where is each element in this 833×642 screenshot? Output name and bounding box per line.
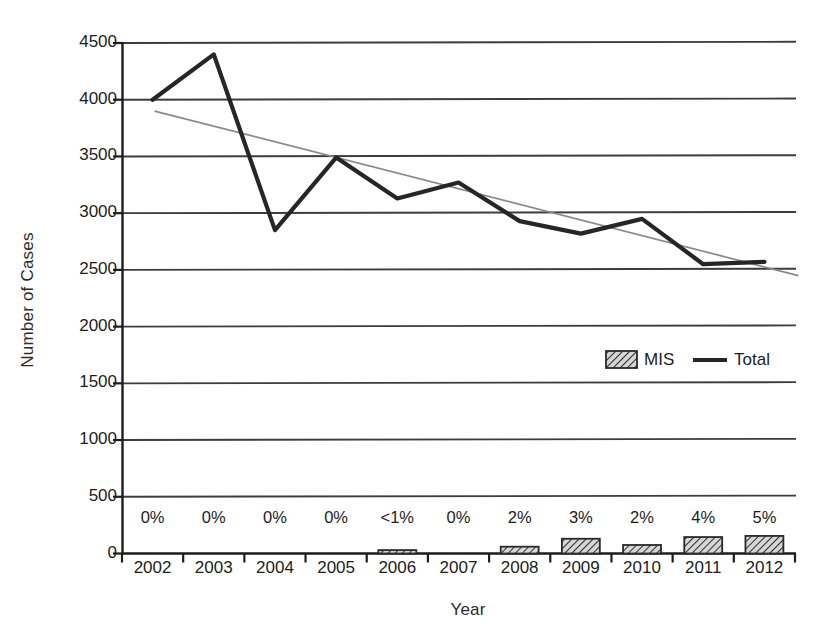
y-tick-label: 500 bbox=[47, 486, 117, 506]
mis-percent-label: 2% bbox=[611, 508, 673, 527]
mis-percent-label: 4% bbox=[672, 508, 734, 527]
y-tick-label: 4500 bbox=[47, 32, 117, 52]
total-line-series bbox=[153, 54, 765, 264]
mis-percent-label: 3% bbox=[550, 508, 612, 527]
mis-percent-label: 0% bbox=[183, 508, 245, 527]
x-tick-label: 2003 bbox=[183, 558, 245, 578]
mis-bar bbox=[684, 537, 722, 553]
y-tick-label: 3500 bbox=[47, 145, 117, 165]
chart-plot-area bbox=[0, 0, 833, 642]
mis-bar bbox=[623, 545, 661, 554]
x-tick-label: 2004 bbox=[244, 558, 306, 578]
x-tick-label: 2010 bbox=[611, 558, 673, 578]
mis-bar bbox=[378, 550, 416, 553]
mis-percent-label: 2% bbox=[489, 508, 551, 527]
x-tick-label: 2002 bbox=[122, 558, 184, 578]
x-tick-label: 2008 bbox=[489, 558, 551, 578]
gridline bbox=[122, 42, 796, 43]
mis-percent-label: 0% bbox=[122, 508, 184, 527]
legend-swatch-mis bbox=[606, 351, 637, 368]
gridlines bbox=[122, 42, 796, 497]
y-tick-label: 2000 bbox=[47, 316, 117, 336]
mis-bar bbox=[745, 536, 783, 554]
x-axis-title: Year bbox=[388, 600, 548, 620]
gridline bbox=[122, 99, 796, 100]
x-tick-label: 2005 bbox=[305, 558, 367, 578]
y-tick-label: 4000 bbox=[47, 89, 117, 109]
mis-bar-series bbox=[378, 536, 783, 554]
y-axis-title: Number of Cases bbox=[18, 210, 38, 390]
gridline bbox=[122, 382, 796, 383]
y-tick-label: 1500 bbox=[47, 372, 117, 392]
y-tick-label: 2500 bbox=[47, 259, 117, 279]
mis-percent-label: 5% bbox=[733, 508, 795, 527]
x-tick-label: 2012 bbox=[733, 558, 795, 578]
x-tick-label: 2007 bbox=[428, 558, 490, 578]
mis-percent-label: 0% bbox=[305, 508, 367, 527]
x-tick-label: 2009 bbox=[550, 558, 612, 578]
y-tick-label: 1000 bbox=[47, 429, 117, 449]
x-tick-label: 2011 bbox=[672, 558, 734, 578]
mis-percent-label: 0% bbox=[244, 508, 306, 527]
legend-label-total: Total bbox=[734, 350, 770, 370]
gridline bbox=[122, 496, 796, 497]
mis-percent-label: 0% bbox=[428, 508, 490, 527]
y-axis-tick-marks bbox=[113, 43, 122, 554]
y-tick-label: 3000 bbox=[47, 202, 117, 222]
gridline bbox=[122, 155, 796, 156]
y-tick-label: 0 bbox=[47, 543, 117, 563]
mis-bar bbox=[501, 547, 539, 554]
mis-bar bbox=[562, 539, 600, 554]
legend-label-mis: MIS bbox=[644, 350, 674, 370]
x-tick-label: 2006 bbox=[366, 558, 428, 578]
gridline bbox=[122, 325, 796, 326]
gridline bbox=[122, 439, 796, 440]
chart-figure: 050010001500200025003000350040004500 200… bbox=[0, 0, 833, 642]
gridline bbox=[122, 269, 796, 270]
gridline bbox=[122, 212, 796, 213]
mis-percent-label: <1% bbox=[366, 508, 428, 527]
